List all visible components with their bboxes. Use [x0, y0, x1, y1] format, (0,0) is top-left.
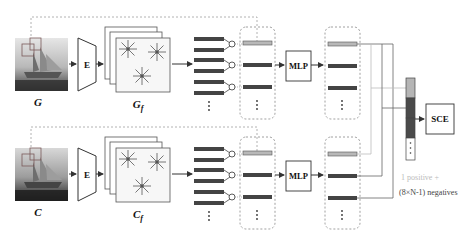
feature-maps-c	[105, 137, 170, 202]
connectors	[357, 44, 406, 198]
mlp-label-g: MLP	[289, 61, 308, 71]
feature-label-g: Gf	[133, 98, 145, 113]
image-label-c: C	[34, 206, 42, 218]
feature-vector-pairs-g	[194, 37, 235, 111]
projected-features-g	[325, 27, 360, 119]
branch-c: C E Cf	[15, 127, 360, 229]
logits-column	[406, 78, 415, 160]
mlp-label-c: MLP	[289, 171, 308, 181]
encoder-label-c: E	[84, 170, 90, 180]
annotation-negatives: (8×N-1) negatives	[399, 188, 458, 197]
image-label-g: G	[34, 96, 42, 108]
image-g	[15, 38, 68, 91]
encoder-label-g: E	[84, 60, 90, 70]
sce-loss-label: SCE	[431, 114, 449, 124]
image-c	[15, 148, 68, 201]
pooled-features-g	[235, 27, 275, 119]
feature-maps-g	[105, 27, 170, 92]
projected-features-c	[325, 137, 360, 229]
branch-g: G E Gf	[15, 17, 360, 119]
feature-vector-pairs-c	[194, 147, 235, 221]
annotation-positive: 1 positive +	[401, 173, 439, 182]
feature-label-c: Cf	[133, 208, 144, 223]
pooled-features-c	[235, 137, 275, 229]
